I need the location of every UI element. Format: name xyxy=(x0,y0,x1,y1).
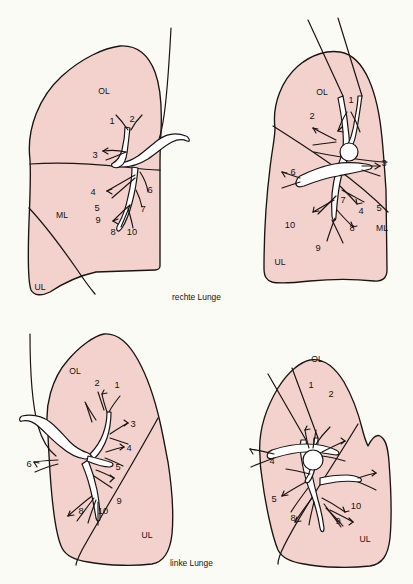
lobe-label-middle: ML xyxy=(56,210,68,220)
lobe-label-lower: UL xyxy=(275,257,286,267)
lobe-label-lower: UL xyxy=(142,530,153,540)
segment-label: 2 xyxy=(129,114,134,124)
segment-label: 1 xyxy=(109,116,114,126)
segment-label: 1 xyxy=(348,95,353,105)
segment-label: 4 xyxy=(90,187,95,197)
hilum-circle xyxy=(303,450,323,470)
diagram-left-lung-medial: 1 2 4 5 8 9 10 OL UL xyxy=(210,312,413,584)
segment-label: 10 xyxy=(351,501,361,511)
segment-label: 10 xyxy=(127,227,137,237)
caption-left-lung: linke Lunge xyxy=(170,558,213,568)
lobe-label-upper: OL xyxy=(311,354,323,364)
segment-label: 9 xyxy=(95,215,100,225)
segment-label: 5 xyxy=(94,203,99,213)
segment-label: 8 xyxy=(349,223,354,233)
lobe-label-middle: ML xyxy=(376,223,388,233)
segment-label: 5 xyxy=(376,203,381,213)
diagram-left-lung-lateral: 1 2 3 4 5 6 8 9 10 OL UL xyxy=(0,312,200,584)
lobe-label-upper: OL xyxy=(316,87,328,97)
segment-label: 2 xyxy=(94,378,99,388)
segment-label: 7 xyxy=(340,195,345,205)
lobe-label-lower: UL xyxy=(360,534,371,544)
segment-label: 4 xyxy=(269,456,274,466)
hilum-circle xyxy=(340,143,358,161)
diagram-right-lung-lateral: 1 2 3 4 5 6 7 8 9 10 OL ML UL xyxy=(0,0,200,310)
segment-label: 5 xyxy=(115,462,120,472)
lung-segments-figure: 1 2 3 4 5 6 7 8 9 10 OL ML UL xyxy=(0,0,413,584)
segment-label: 3 xyxy=(130,419,135,429)
segment-label: 2 xyxy=(328,389,333,399)
segment-label: 3 xyxy=(381,158,386,168)
segment-label: 9 xyxy=(315,243,320,253)
lobe-label-upper: OL xyxy=(98,86,110,96)
segment-label: 2 xyxy=(309,111,314,121)
caption-right-lung: rechte Lunge xyxy=(172,292,221,302)
segment-label: 8 xyxy=(110,227,115,237)
segment-label: 6 xyxy=(147,185,152,195)
segment-label: 8 xyxy=(290,513,295,523)
segment-label: 10 xyxy=(98,506,108,516)
segment-label: 6 xyxy=(290,167,295,177)
segment-label: 4 xyxy=(358,206,363,216)
lobe-label-lower: UL xyxy=(35,282,46,292)
segment-label: 6 xyxy=(26,459,31,469)
segment-label: 9 xyxy=(335,516,340,526)
segment-label: 9 xyxy=(116,496,121,506)
segment-label: 10 xyxy=(285,220,295,230)
segment-label: 7 xyxy=(140,204,145,214)
segment-label: 8 xyxy=(78,506,83,516)
lung-outline-left-medial xyxy=(260,360,391,568)
diagram-right-lung-medial: 1 2 3 4 5 6 7 8 9 10 OL ML UL xyxy=(210,0,413,310)
segment-label: 4 xyxy=(126,443,131,453)
segment-label: 3 xyxy=(92,150,97,160)
segment-label: 1 xyxy=(308,380,313,390)
lung-outline-right-lateral xyxy=(28,46,161,295)
segment-label: 5 xyxy=(271,494,276,504)
segment-label: 1 xyxy=(114,380,119,390)
lobe-label-upper: OL xyxy=(69,366,81,376)
